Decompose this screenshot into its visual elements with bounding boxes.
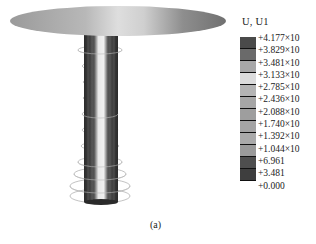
- legend-color-bar: [240, 37, 256, 181]
- legend-swatch: [240, 49, 256, 61]
- legend-label: +3.829×10: [258, 44, 300, 56]
- legend-label: +2.785×10: [258, 81, 300, 93]
- legend-labels: +4.177×10 +3.829×10 +3.481×10 +3.133×10 …: [258, 32, 300, 192]
- legend-label: +3.481×10: [258, 57, 300, 69]
- legend-swatch: [240, 97, 256, 109]
- legend-label: +3.481: [258, 167, 300, 179]
- legend-label: +2.088×10: [258, 106, 300, 118]
- legend-label: +0.000: [258, 180, 300, 192]
- legend-swatch: [240, 61, 256, 73]
- legend-label: +3.133×10: [258, 69, 300, 81]
- legend-label: +1.044×10: [258, 143, 300, 155]
- legend-swatch: [240, 37, 256, 49]
- legend-label: +4.177×10: [258, 32, 300, 44]
- legend-label: +6.961: [258, 155, 300, 167]
- legend-swatch: [240, 145, 256, 157]
- contour-figure: U, U1 +4.177×10 +3.829×10 +3.481×10 +3.1…: [0, 0, 316, 244]
- legend-swatch: [240, 85, 256, 97]
- legend-swatch: [240, 157, 256, 169]
- legend-swatch: [240, 73, 256, 85]
- pile-cap: [10, 6, 226, 36]
- legend-swatch: [240, 121, 256, 133]
- legend-label: +2.436×10: [258, 93, 300, 105]
- legend-label: +1.392×10: [258, 130, 300, 142]
- legend-swatch: [240, 133, 256, 145]
- legend-title: U, U1: [242, 16, 269, 27]
- legend-swatch: [240, 169, 256, 181]
- legend-label: +1.740×10: [258, 118, 300, 130]
- legend-swatch: [240, 109, 256, 121]
- figure-caption: (a): [150, 219, 161, 230]
